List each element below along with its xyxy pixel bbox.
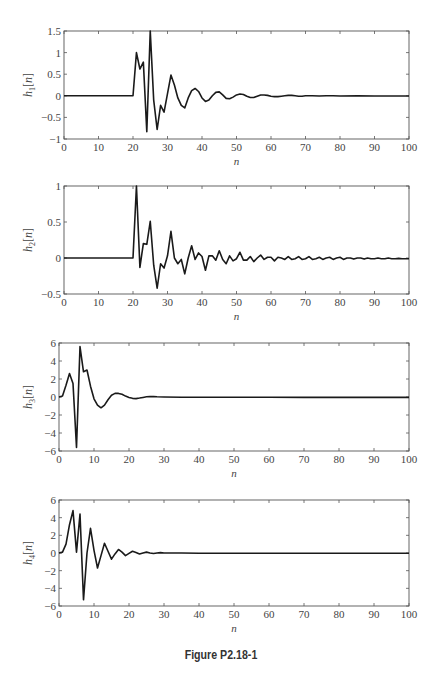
x-tick-label: 40 <box>197 141 209 153</box>
y-tick-label: −1 <box>49 133 61 145</box>
subplot-h3: 0102030405060708090100−6−4−20246nh3[n] <box>21 337 418 479</box>
signal-line <box>59 347 409 448</box>
y-tick-label: 6 <box>51 337 57 349</box>
y-tick-label: −2 <box>44 565 56 577</box>
x-tick-label: 80 <box>334 608 346 620</box>
x-tick-label: 20 <box>128 296 140 308</box>
x-tick-label: 30 <box>159 453 171 465</box>
x-tick-label: 30 <box>162 296 174 308</box>
x-tick-label: 10 <box>89 453 101 465</box>
y-tick-label: −4 <box>44 582 56 594</box>
x-tick-label: 20 <box>128 141 140 153</box>
x-tick-label: 50 <box>229 453 241 465</box>
subplot-h1: 0102030405060708090100−1−0.500.511.5nh1[… <box>21 25 418 167</box>
y-tick-label: 0 <box>51 391 57 403</box>
y-tick-label: −6 <box>44 445 56 457</box>
x-tick-label: 80 <box>335 141 347 153</box>
x-axis-label: n <box>234 310 240 322</box>
x-tick-label: 100 <box>401 608 418 620</box>
x-tick-label: 50 <box>229 608 241 620</box>
x-tick-label: 10 <box>89 608 101 620</box>
signal-line <box>59 511 409 600</box>
axes-box <box>64 31 409 139</box>
x-tick-label: 70 <box>300 296 312 308</box>
x-tick-label: 60 <box>266 141 278 153</box>
y-tick-label: 4 <box>51 355 57 367</box>
y-tick-label: 1 <box>56 47 62 59</box>
x-axis-label: n <box>231 622 237 634</box>
x-tick-label: 50 <box>231 296 243 308</box>
x-tick-label: 90 <box>369 608 381 620</box>
x-tick-label: 60 <box>266 296 278 308</box>
x-tick-label: 100 <box>401 141 418 153</box>
x-tick-label: 10 <box>93 141 105 153</box>
figure: 0102030405060708090100−1−0.500.511.5nh1[… <box>0 0 442 674</box>
y-tick-label: −6 <box>44 600 56 612</box>
axes-box <box>64 186 409 294</box>
figure-caption: Figure P2.18-1 <box>33 648 409 662</box>
x-tick-label: 0 <box>61 141 67 153</box>
x-tick-label: 40 <box>194 453 206 465</box>
y-tick-label: −0.5 <box>41 288 61 300</box>
y-tick-label: 1.5 <box>47 25 61 37</box>
y-tick-label: 0 <box>56 90 62 102</box>
x-tick-label: 30 <box>159 608 171 620</box>
x-tick-label: 90 <box>369 141 381 153</box>
y-axis-label: h3[n] <box>21 385 37 409</box>
y-axis-label: h1[n] <box>21 73 37 97</box>
x-tick-label: 20 <box>124 608 136 620</box>
x-axis-label: n <box>234 155 240 167</box>
y-tick-label: 1 <box>56 180 62 192</box>
y-tick-label: 2 <box>51 373 57 385</box>
x-tick-label: 100 <box>401 453 418 465</box>
x-tick-label: 70 <box>299 608 311 620</box>
x-tick-label: 10 <box>93 296 105 308</box>
x-tick-label: 40 <box>197 296 209 308</box>
y-tick-label: 0.5 <box>47 216 61 228</box>
subplot-h4: 0102030405060708090100−6−4−20246nh4[n] <box>21 494 418 634</box>
x-tick-label: 0 <box>56 453 62 465</box>
y-tick-label: −4 <box>44 427 56 439</box>
x-tick-label: 90 <box>369 296 381 308</box>
x-tick-label: 60 <box>264 453 276 465</box>
x-tick-label: 20 <box>124 453 136 465</box>
y-tick-label: 0 <box>56 252 62 264</box>
subplot-h2: 0102030405060708090100−0.500.51nh2[n] <box>21 180 418 322</box>
signal-line <box>64 186 409 288</box>
x-tick-label: 30 <box>162 141 174 153</box>
x-axis-label: n <box>231 467 237 479</box>
signal-line <box>64 31 409 132</box>
x-tick-label: 0 <box>61 296 67 308</box>
y-axis-label: h2[n] <box>21 228 37 252</box>
y-axis-label: h4[n] <box>21 541 37 565</box>
x-tick-label: 90 <box>369 453 381 465</box>
y-tick-label: 0 <box>51 547 57 559</box>
x-tick-label: 50 <box>231 141 243 153</box>
x-tick-label: 60 <box>264 608 276 620</box>
y-tick-label: 4 <box>51 512 57 524</box>
y-tick-label: 0.5 <box>47 68 61 80</box>
x-tick-label: 80 <box>334 453 346 465</box>
x-tick-label: 40 <box>194 608 206 620</box>
y-tick-label: −0.5 <box>41 111 61 123</box>
x-tick-label: 70 <box>299 453 311 465</box>
x-tick-label: 80 <box>335 296 347 308</box>
y-tick-label: 6 <box>51 494 57 506</box>
y-tick-label: −2 <box>44 409 56 421</box>
x-tick-label: 0 <box>56 608 62 620</box>
y-tick-label: 2 <box>51 529 57 541</box>
x-tick-label: 100 <box>401 296 418 308</box>
x-tick-label: 70 <box>300 141 312 153</box>
